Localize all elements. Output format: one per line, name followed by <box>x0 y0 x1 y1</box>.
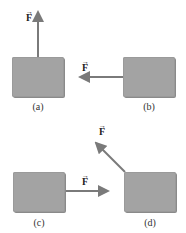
vector-mark: → <box>82 172 89 180</box>
force-label-b: → F <box>82 62 88 73</box>
vector-mark: → <box>82 58 89 66</box>
force-label-c: → F <box>82 176 88 187</box>
caption-b: (b) <box>134 101 164 112</box>
block-d <box>124 172 176 212</box>
force-label-a: → F <box>26 12 32 23</box>
caption-a: (a) <box>23 101 53 112</box>
force-label-d: → F <box>99 126 105 137</box>
caption-c: (c) <box>24 217 54 228</box>
vector-mark: → <box>26 8 33 16</box>
vector-mark: → <box>99 122 106 130</box>
block-a <box>12 57 64 97</box>
block-c <box>13 172 65 212</box>
caption-d: (d) <box>135 217 165 228</box>
force-arrow-d <box>96 143 125 172</box>
block-b <box>123 57 175 97</box>
